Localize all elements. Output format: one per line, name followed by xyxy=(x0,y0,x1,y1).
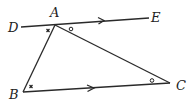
label-c: C xyxy=(176,78,186,93)
line-de xyxy=(21,18,149,27)
cross-mark-a-icon xyxy=(47,29,50,32)
cross-mark-b-icon xyxy=(30,85,33,88)
circle-mark-a-icon xyxy=(69,27,73,31)
label-e: E xyxy=(150,10,161,25)
side-ab xyxy=(23,25,55,92)
triangle-diagram: A D E B C xyxy=(0,0,193,103)
label-b: B xyxy=(8,87,19,102)
label-d: D xyxy=(7,20,19,35)
label-a: A xyxy=(49,5,59,20)
side-ac xyxy=(55,25,170,83)
circle-mark-c-icon xyxy=(150,79,154,83)
side-bc xyxy=(23,83,170,92)
